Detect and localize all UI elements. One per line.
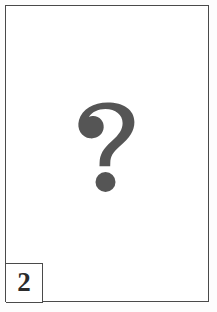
plate-frame: 2 — [5, 5, 209, 302]
scanned-page: 2 — [0, 0, 217, 312]
plate-number-label: 2 — [17, 269, 31, 298]
question-mark-icon — [76, 102, 138, 192]
plate-number-box: 2 — [6, 263, 43, 303]
